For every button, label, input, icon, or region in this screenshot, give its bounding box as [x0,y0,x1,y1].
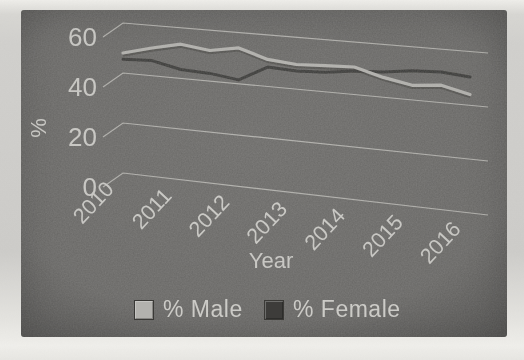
line-chart: 0204060%2010201120122013201420152016Year [0,0,524,360]
vignette-overlay [21,10,507,337]
scanned-page: 0204060%2010201120122013201420152016Year… [0,0,524,360]
